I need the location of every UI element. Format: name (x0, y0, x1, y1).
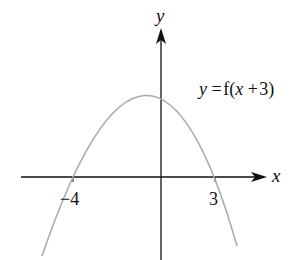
curve-label: y = f(x + 3) (199, 80, 274, 98)
parabola-curve (42, 95, 237, 256)
tick-label-3: 3 (209, 190, 218, 208)
curve-label-arg: x (235, 79, 243, 99)
curve-label-lhs: y (199, 79, 207, 99)
y-axis-label: y (156, 6, 164, 25)
curve-label-eq: = (212, 79, 222, 99)
curve-label-rest: 3) (259, 79, 274, 99)
curve-label-func: f( (223, 79, 235, 99)
graph (0, 0, 300, 260)
tick-label-neg4: −4 (60, 190, 79, 208)
curve-label-plus: + (248, 79, 258, 99)
x-axis-label: x (272, 166, 280, 185)
